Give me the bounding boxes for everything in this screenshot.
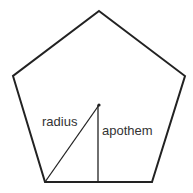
center-point xyxy=(97,103,100,106)
pentagon-diagram: radius apothem xyxy=(0,0,193,193)
pentagon-outline xyxy=(13,11,185,182)
radius-label: radius xyxy=(42,114,78,129)
apothem-label: apothem xyxy=(102,123,153,138)
